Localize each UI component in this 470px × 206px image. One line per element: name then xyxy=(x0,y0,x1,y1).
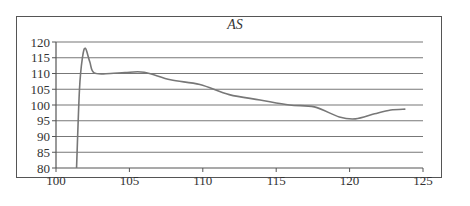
y-tick-label: 95 xyxy=(37,113,50,128)
y-tick-label: 110 xyxy=(31,66,50,81)
y-tick-label: 100 xyxy=(31,98,51,113)
x-tick-label: 115 xyxy=(267,173,286,188)
y-tick-label: 105 xyxy=(31,82,51,97)
x-tick-label: 110 xyxy=(193,173,212,188)
line-chart: 80859095100105110115120 1001051101151201… xyxy=(0,0,470,206)
y-tick-label: 120 xyxy=(31,35,51,50)
x-tick-label: 105 xyxy=(120,173,140,188)
series-line-as xyxy=(77,48,406,168)
x-tick-label: 120 xyxy=(340,173,360,188)
y-tick-label: 90 xyxy=(37,129,50,144)
y-tick-label: 115 xyxy=(31,50,50,65)
x-axis-ticks: 100105110115120125 xyxy=(46,168,433,188)
x-tick-label: 125 xyxy=(413,173,433,188)
y-tick-label: 85 xyxy=(37,145,50,160)
y-axis-ticks: 80859095100105110115120 xyxy=(31,35,57,176)
x-tick-label: 100 xyxy=(46,173,66,188)
